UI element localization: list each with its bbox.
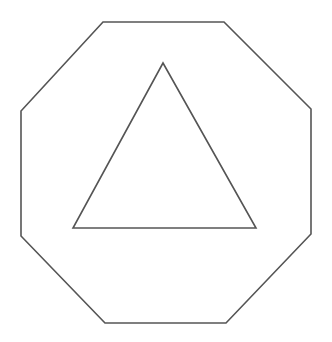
diagram-canvas [0,0,332,342]
triangle-outline [73,63,256,228]
diagram-svg [0,0,332,342]
